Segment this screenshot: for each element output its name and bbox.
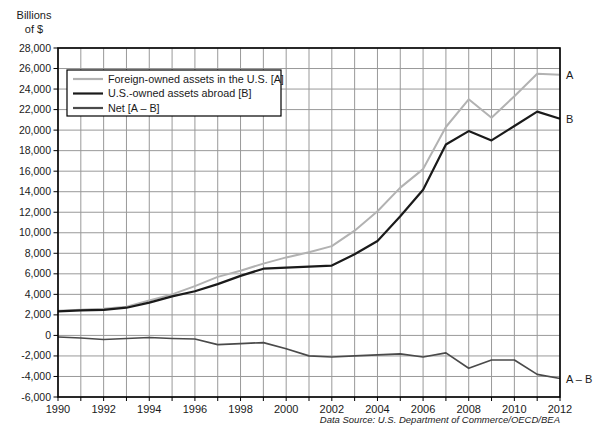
x-tick-label: 2000	[274, 403, 298, 415]
y-tick-label: -2,000	[21, 349, 51, 361]
y-tick-label: 18,000	[19, 144, 51, 156]
y-tick-label: 12,000	[19, 206, 51, 218]
y-tick-label: 22,000	[19, 103, 51, 115]
chart-canvas: -6,000-4,000-2,00002,0004,0006,0008,0001…	[0, 0, 603, 439]
x-tick-label: 1992	[91, 403, 115, 415]
y-tick-label: 4,000	[25, 288, 51, 300]
series-end-label-2: A – B	[566, 373, 592, 385]
y-tick-label: 6,000	[25, 267, 51, 279]
y-tick-label: 26,000	[19, 62, 51, 74]
series-end-label-1: B	[566, 113, 573, 125]
x-tick-label: 1996	[183, 403, 207, 415]
chart-page: Billions of $ -6,000-4,000-2,00002,0004,…	[0, 0, 603, 439]
x-tick-label: 1998	[228, 403, 252, 415]
y-tick-label: 2,000	[25, 308, 51, 320]
y-tick-label: 0	[45, 329, 51, 341]
legend-label-0: Foreign-owned assets in the U.S. [A]	[108, 73, 284, 85]
y-tick-label: 20,000	[19, 124, 51, 136]
y-tick-label: 24,000	[19, 83, 51, 95]
y-tick-label: -6,000	[21, 391, 51, 403]
series-end-label-0: A	[566, 69, 574, 81]
legend-label-1: U.S.-owned assets abroad [B]	[108, 87, 251, 99]
y-tick-label: 10,000	[19, 226, 51, 238]
x-tick-label: 1990	[46, 403, 70, 415]
y-tick-label: 16,000	[19, 165, 51, 177]
y-tick-label: 28,000	[19, 42, 51, 54]
x-tick-label: 1994	[137, 403, 161, 415]
data-source-note: Data Source: U.S. Department of Commerce…	[320, 414, 560, 425]
legend-label-2: Net [A – B]	[108, 102, 160, 114]
y-tick-label: 8,000	[25, 247, 51, 259]
y-tick-label: -4,000	[21, 370, 51, 382]
y-tick-label: 14,000	[19, 185, 51, 197]
